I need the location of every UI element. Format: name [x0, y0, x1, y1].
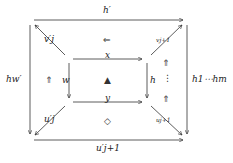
label-inner-y: y	[105, 94, 110, 103]
label-vj-prime: v′j	[44, 35, 54, 44]
label-uj-prime: u′j	[44, 115, 55, 124]
label-bottom: u′j+1	[96, 144, 120, 153]
label-inner-w: w	[62, 76, 70, 85]
double-arrow-left-icon: ⇐	[103, 36, 111, 45]
label-vj1: vj+1	[156, 37, 170, 43]
commutative-diagram: h′ u′j+1 hw′ h1⋯hm x y w h v′j vj+1 u′j …	[0, 0, 233, 163]
label-left: hw′	[6, 75, 22, 84]
label-uj1: uj+1	[156, 117, 171, 123]
double-arrow-up-icon: ⇑	[162, 59, 170, 68]
label-inner-h: h	[150, 76, 156, 85]
triangle-icon: ▲	[104, 76, 111, 85]
double-arrow-up-icon: ⇑	[45, 76, 53, 85]
label-inner-x: x	[105, 51, 110, 60]
vertical-dots-icon: ⋮	[163, 74, 172, 83]
double-arrow-up-icon: ⇑	[162, 95, 170, 104]
diamond-icon: ◇	[104, 117, 111, 126]
label-right: h1⋯hm	[192, 75, 227, 84]
label-top: h′	[103, 6, 111, 15]
